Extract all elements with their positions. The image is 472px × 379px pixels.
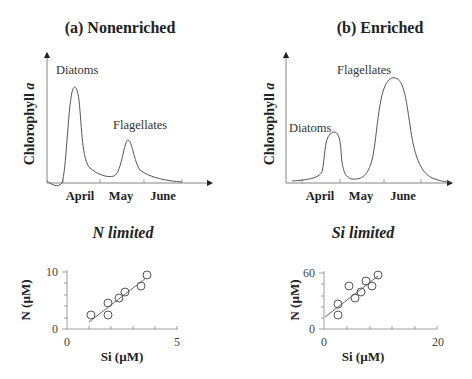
y-axis-label: N (µM) [287, 279, 302, 320]
flagellates-label: Flagellates [113, 118, 167, 132]
x-tick-20: 20 [432, 335, 444, 349]
month-april: April [306, 189, 335, 203]
panel-b-title: (b) Enriched [337, 19, 424, 37]
x-axis-label: Si (µM) [342, 349, 385, 364]
x-tick-5: 5 [174, 335, 180, 349]
y-axis-label: N (µM) [18, 279, 33, 320]
panel-n-limited: N limited 10 0 0 5 Si (µM) N (µM) [18, 224, 180, 364]
y-axis-label: Chlorophyll a [22, 83, 37, 166]
y-tick-60: 60 [303, 266, 315, 280]
panel-b-enriched: (b) Enriched Diatoms Flagellates Chlorop… [262, 19, 450, 203]
y-tick-0: 0 [52, 322, 58, 336]
flagellates-label: Flagellates [337, 63, 391, 77]
si-limited-title: Si limited [332, 224, 396, 241]
x-axis-label: Si (µM) [101, 349, 144, 364]
y-tick-10: 10 [46, 265, 58, 279]
n-limited-title: N limited [92, 224, 155, 241]
y-axis-label: Chlorophyll a [262, 83, 277, 166]
month-may: May [109, 189, 134, 203]
x-tick-0: 0 [321, 335, 327, 349]
diatoms-label: Diatoms [56, 63, 98, 77]
chlorophyll-curve [47, 87, 182, 186]
month-april: April [66, 189, 95, 203]
month-may: May [349, 189, 374, 203]
month-june: June [150, 189, 176, 203]
diatoms-label: Diatoms [289, 121, 331, 135]
month-june: June [390, 189, 416, 203]
data-points [87, 271, 151, 319]
y-tick-0: 0 [309, 322, 315, 336]
panel-a-title: (a) Nonenriched [65, 19, 176, 37]
panel-si-limited: Si limited 60 0 0 20 Si (µM) N (µM) [287, 224, 444, 364]
x-tick-0: 0 [64, 335, 70, 349]
panel-a-nonenriched: (a) Nonenriched Diatoms Flagellates Chlo… [22, 19, 210, 203]
figure: (a) Nonenriched Diatoms Flagellates Chlo… [0, 0, 472, 379]
